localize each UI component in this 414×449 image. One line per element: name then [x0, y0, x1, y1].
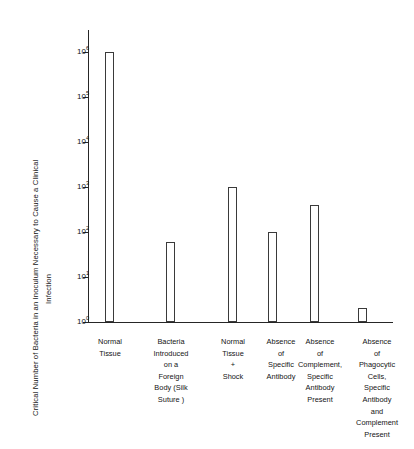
category-label-line: Complement — [346, 417, 408, 429]
bar — [166, 242, 175, 322]
tick-mantissa: 10 — [77, 272, 86, 281]
category-label-line: Normal — [88, 336, 132, 348]
tick-mantissa: 10 — [77, 47, 86, 56]
y-axis-tick-label: 105 — [61, 93, 89, 101]
tick-exponent: 1 — [86, 270, 89, 276]
y-axis-tick-label: 106 — [61, 48, 89, 56]
tick-mantissa: 10 — [77, 182, 86, 191]
category-label-line: Present — [346, 429, 408, 441]
y-axis-tick-label: 103 — [61, 183, 89, 191]
x-axis-category-label: AbsenceofPhagocyticCells,SpecificAntibod… — [346, 336, 408, 440]
x-axis-category-label: BacteriaIntroducedon aForeignBody (SilkS… — [140, 336, 202, 406]
category-label-line: Suture ) — [140, 394, 202, 406]
tick-exponent: 6 — [86, 45, 89, 51]
plot-area: 106105104103102101100 NormalTissueBacter… — [0, 0, 414, 449]
tick-mantissa: 10 — [77, 92, 86, 101]
x-axis-category-label: AbsenceofComplement,SpecificAntibodyPres… — [292, 336, 348, 406]
bar — [268, 232, 277, 322]
category-label-line: Phagocytic — [346, 359, 408, 371]
chart-figure: Critical Number of Bacteria in an Inocul… — [0, 0, 414, 449]
tick-exponent: 2 — [86, 225, 89, 231]
category-label-line: Introduced — [140, 348, 202, 360]
category-label-line: Body (Silk — [140, 382, 202, 394]
x-axis-category-label: NormalTissue+Shock — [207, 336, 259, 382]
category-label-line: Antibody — [292, 382, 348, 394]
tick-mantissa: 10 — [77, 227, 86, 236]
category-label-line: Tissue — [88, 348, 132, 360]
bar — [310, 205, 319, 322]
x-axis-line — [88, 322, 393, 323]
category-label-line: Cells, — [346, 371, 408, 383]
category-label-line: Normal — [207, 336, 259, 348]
tick-exponent: 4 — [86, 135, 89, 141]
category-label-line: Absence — [346, 336, 408, 348]
category-label-line: and — [346, 406, 408, 418]
bar — [228, 187, 237, 322]
category-label-line: Complement, — [292, 359, 348, 371]
bar — [358, 308, 367, 322]
tick-mantissa: 10 — [77, 317, 86, 326]
category-label-line: of — [346, 348, 408, 360]
category-label-line: Shock — [207, 371, 259, 383]
tick-exponent: 5 — [86, 90, 89, 96]
category-label-line: of — [292, 348, 348, 360]
category-label-line: Antibody — [346, 394, 408, 406]
bar — [105, 52, 114, 322]
category-label-line: Specific — [346, 382, 408, 394]
category-label-line: Bacteria — [140, 336, 202, 348]
category-label-line: Foreign — [140, 371, 202, 383]
y-axis-tick-label: 104 — [61, 138, 89, 146]
y-axis-tick-label: 102 — [61, 228, 89, 236]
category-label-line: + — [207, 359, 259, 371]
y-axis-tick-label: 101 — [61, 273, 89, 281]
category-label-line: Present — [292, 394, 348, 406]
x-axis-category-label: NormalTissue — [88, 336, 132, 359]
tick-exponent: 0 — [86, 315, 89, 321]
category-label-line: Specific — [292, 371, 348, 383]
category-label-line: Tissue — [207, 348, 259, 360]
tick-exponent: 3 — [86, 180, 89, 186]
category-label-line: on a — [140, 359, 202, 371]
category-label-line: Absence — [292, 336, 348, 348]
y-axis-tick-label: 100 — [61, 318, 89, 326]
tick-mantissa: 10 — [77, 137, 86, 146]
